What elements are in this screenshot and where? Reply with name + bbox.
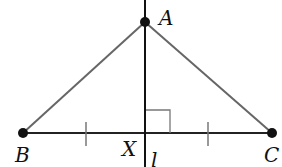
segment-ac bbox=[145, 22, 272, 133]
label-c: C bbox=[264, 143, 279, 167]
label-x: X bbox=[120, 137, 137, 161]
right-angle-mark bbox=[146, 110, 170, 133]
point-a bbox=[140, 17, 150, 27]
label-line-l: l bbox=[151, 148, 157, 167]
triangle-diagram: A B C X l bbox=[0, 0, 282, 167]
point-c bbox=[267, 128, 277, 138]
segment-ab bbox=[23, 22, 145, 133]
label-b: B bbox=[14, 143, 30, 167]
label-a: A bbox=[157, 6, 173, 30]
point-b bbox=[18, 128, 28, 138]
